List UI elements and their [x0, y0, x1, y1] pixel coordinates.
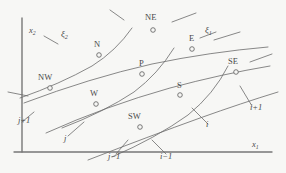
- ray-se-upper-right: [250, 54, 272, 62]
- ray-ne-upper-right: [172, 13, 196, 22]
- node-label-n: N: [94, 40, 100, 49]
- ray-ne-upper-left: [110, 10, 124, 20]
- node-label-ne: NE: [145, 13, 156, 22]
- node-label-sw: SW: [128, 112, 141, 121]
- x1-axis-label: x1: [252, 140, 259, 150]
- node-label-nw: NW: [38, 73, 52, 82]
- node-marker-s: [178, 93, 183, 98]
- x2-axis-label: x2: [29, 26, 36, 36]
- ray-w-lower-left: [68, 122, 84, 136]
- grid-stencil-figure: x2 x1 ξ2 ξ1 NW N NE W P E SW S SE j+1 j …: [0, 0, 286, 173]
- grid-line-i: [62, 48, 174, 128]
- node-marker-w: [94, 102, 99, 107]
- node-marker-sw: [138, 125, 143, 130]
- node-label-se: SE: [228, 57, 238, 66]
- index-label-i-minus-1: i−1: [160, 152, 172, 161]
- node-marker-n: [97, 53, 102, 58]
- index-label-j-plus-1: j+1: [18, 116, 30, 125]
- xi1-label: ξ1: [205, 26, 212, 36]
- node-marker-nw: [48, 86, 53, 91]
- index-label-j: j: [64, 134, 66, 143]
- node-label-s: S: [177, 81, 182, 90]
- diagram-canvas: [0, 0, 286, 173]
- grid-line-j: [46, 66, 270, 133]
- ray-e-upper-right: [214, 32, 240, 40]
- index-label-i: i: [206, 120, 208, 129]
- node-marker-ne: [151, 28, 156, 33]
- node-marker-e: [190, 47, 195, 52]
- index-label-i-plus-1: i+1: [250, 103, 262, 112]
- stub-xi2-tick: [44, 36, 58, 44]
- stub-nw-left: [8, 92, 28, 96]
- grid-line-i-minus-1: [20, 28, 132, 98]
- node-label-p: P: [139, 59, 144, 68]
- node-marker-p: [140, 72, 145, 77]
- node-label-e: E: [189, 34, 194, 43]
- index-label-j-minus-1: j−1: [108, 152, 120, 161]
- node-marker-se: [234, 70, 239, 75]
- xi2-label: ξ2: [61, 30, 68, 40]
- node-label-w: W: [90, 89, 98, 98]
